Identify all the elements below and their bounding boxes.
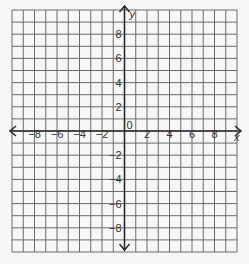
x-tick-label: 8 [211,128,217,140]
x-tick-label: −2 [96,128,109,140]
x-tick-label: −4 [73,128,86,140]
y-tick-label: 4 [115,77,121,89]
y-tick-label: 8 [115,28,121,40]
origin-label: 0 [127,119,133,131]
x-tick-label: 4 [166,128,172,140]
y-tick-label: 2 [115,101,121,113]
x-tick-labels: −8−6−4−22468 [28,128,217,140]
y-tick-label: −2 [109,149,122,161]
x-axis-label: x [233,131,240,143]
x-tick-label: −6 [51,128,64,140]
coordinate-plane: −8−6−4−22468 8642−2−4−6−8 0 x y [0,0,249,264]
y-tick-label: −6 [109,198,122,210]
y-tick-label: −8 [109,222,122,234]
x-tick-label: −8 [28,128,41,140]
y-tick-label: 6 [115,52,121,64]
y-tick-label: −4 [109,173,122,185]
x-tick-label: 6 [189,128,195,140]
x-tick-label: 2 [144,128,150,140]
axes [10,6,241,250]
